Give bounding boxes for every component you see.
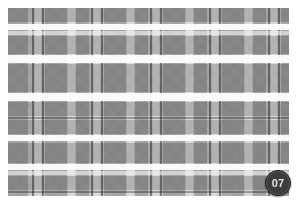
number-badge: 07 [265,170,291,196]
weft-stripe-band-g [8,176,289,190]
weft-stripe-white-e [8,164,289,170]
number-badge-label: 07 [272,178,285,189]
weft-stripe-band-f [8,143,289,163]
weft-stripe-band-b [8,36,289,54]
weft-stripe-lightw-a [8,31,289,35]
weft-stripe-band-e [8,120,289,134]
weft-stripe-band-c [8,64,289,92]
weft-stripe-band-d [8,102,289,116]
weft-stripe-pinw-a [8,117,289,119]
weft-stripe-lightw-b [8,171,289,175]
weft-stripe-white-b [8,55,289,63]
weft-stripe-white-d [8,135,289,141]
swatch-canvas: 07 [0,0,297,204]
weft-stripe-white-a [8,24,289,30]
weft-stripe-band-a [8,8,289,22]
weft-stripe-white-c [8,93,289,101]
fabric-swatch-plate [8,8,289,196]
weft-stripe-pinw-b [8,191,289,193]
